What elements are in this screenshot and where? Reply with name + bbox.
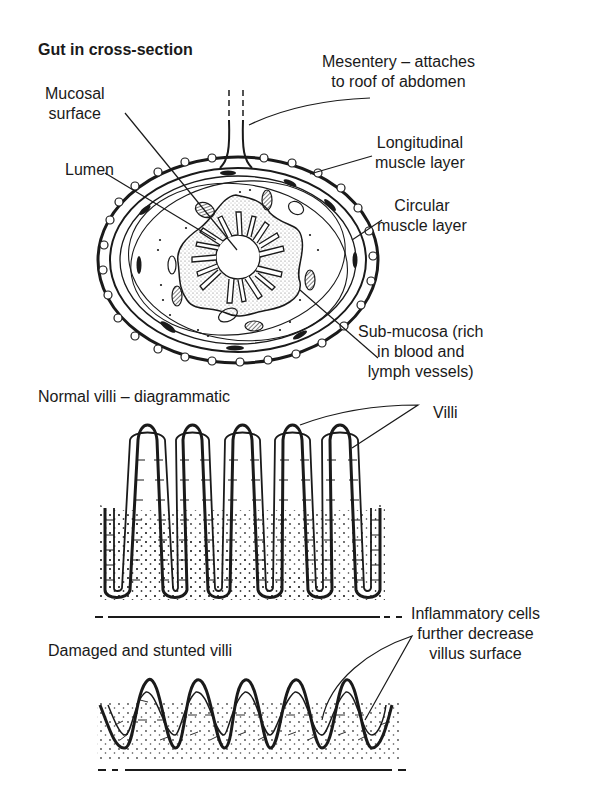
label-line: villus surface xyxy=(411,644,540,664)
label-line: lymph vessels) xyxy=(358,362,483,382)
label-line: to roof of abdomen xyxy=(322,72,475,92)
label-line: further decrease xyxy=(411,624,540,644)
label-line: Mesentery – attaches xyxy=(322,52,475,72)
label-line: surface xyxy=(45,104,105,124)
label-inflammatory-cells: Inflammatory cells further decrease vill… xyxy=(411,604,540,664)
label-line: in blood and xyxy=(358,342,483,362)
label-circular-muscle: Circular muscle layer xyxy=(377,196,467,236)
label-mucosal-surface: Mucosal surface xyxy=(45,84,105,124)
label-submucosa: Sub-mucosa (rich in blood and lymph vess… xyxy=(358,322,483,382)
label-line: muscle layer xyxy=(377,216,467,236)
normal-villi-drawing xyxy=(95,405,418,617)
label-lumen: Lumen xyxy=(65,160,114,180)
label-villi: Villi xyxy=(433,403,458,423)
label-line: muscle layer xyxy=(375,153,465,173)
label-line: Sub-mucosa (rich xyxy=(358,322,483,342)
label-line: Longitudinal xyxy=(375,133,465,153)
damaged-villi-heading: Damaged and stunted villi xyxy=(48,641,232,661)
label-mesentery: Mesentery – attaches to roof of abdomen xyxy=(322,52,475,92)
label-line: Mucosal xyxy=(45,84,105,104)
label-line: Circular xyxy=(377,196,467,216)
label-line: Inflammatory cells xyxy=(411,604,540,624)
normal-villi-heading: Normal villi – diagrammatic xyxy=(38,387,230,407)
label-longitudinal-muscle: Longitudinal muscle layer xyxy=(375,133,465,173)
figure-title: Gut in cross-section xyxy=(38,40,193,60)
gut-cross-section xyxy=(98,90,382,366)
